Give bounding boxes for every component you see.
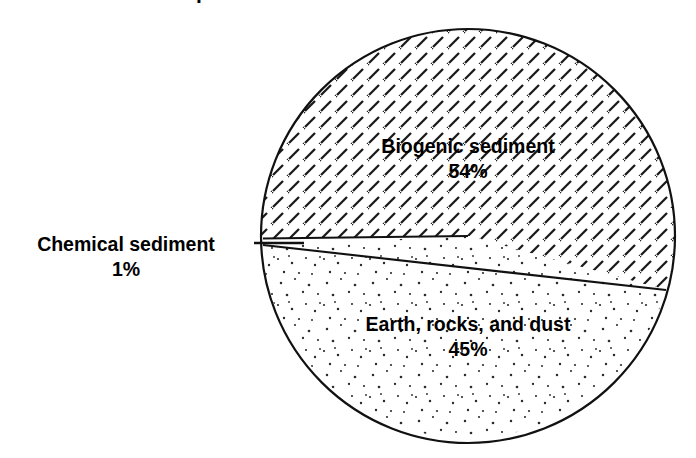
slice-label-earth-rocks-dust-percent: 45% xyxy=(322,337,614,362)
pie-chart-figure: Composition of Ocean Floor Sediments xyxy=(0,0,696,458)
slice-label-chemical-sediment-percent: 1% xyxy=(6,257,246,282)
slice-label-chemical-sediment: Chemical sediment 1% xyxy=(6,232,246,282)
slice-label-biogenic-sediment-percent: 54% xyxy=(340,159,596,184)
pie-chart-graphic xyxy=(0,0,696,458)
slice-label-biogenic-sediment-name: Biogenic sediment xyxy=(381,135,554,157)
slice-label-biogenic-sediment: Biogenic sediment 54% xyxy=(340,134,596,184)
slice-label-earth-rocks-dust: Earth, rocks, and dust 45% xyxy=(322,312,614,362)
slice-label-earth-rocks-dust-name: Earth, rocks, and dust xyxy=(366,313,571,335)
slice-label-chemical-sediment-name: Chemical sediment xyxy=(37,233,215,255)
